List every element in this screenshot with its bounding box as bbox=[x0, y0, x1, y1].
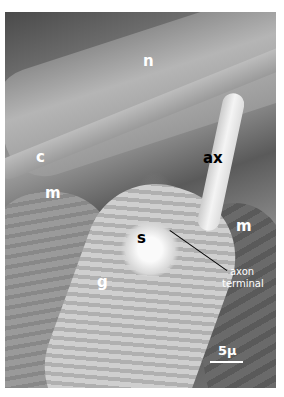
scale-bar bbox=[210, 361, 243, 363]
annotation-line1: axon bbox=[222, 266, 262, 278]
label-s: s bbox=[137, 231, 146, 246]
label-ax: ax bbox=[203, 151, 223, 166]
label-c: c bbox=[36, 150, 45, 165]
label-m-left: m bbox=[45, 186, 61, 201]
label-n: n bbox=[143, 54, 154, 69]
scale-bar-label: 5µ bbox=[218, 343, 237, 358]
annotation-line2: terminal bbox=[222, 278, 262, 290]
label-g: g bbox=[97, 275, 108, 290]
label-m-right: m bbox=[236, 219, 252, 234]
annotation-axon-terminal: axon terminal bbox=[222, 266, 262, 290]
